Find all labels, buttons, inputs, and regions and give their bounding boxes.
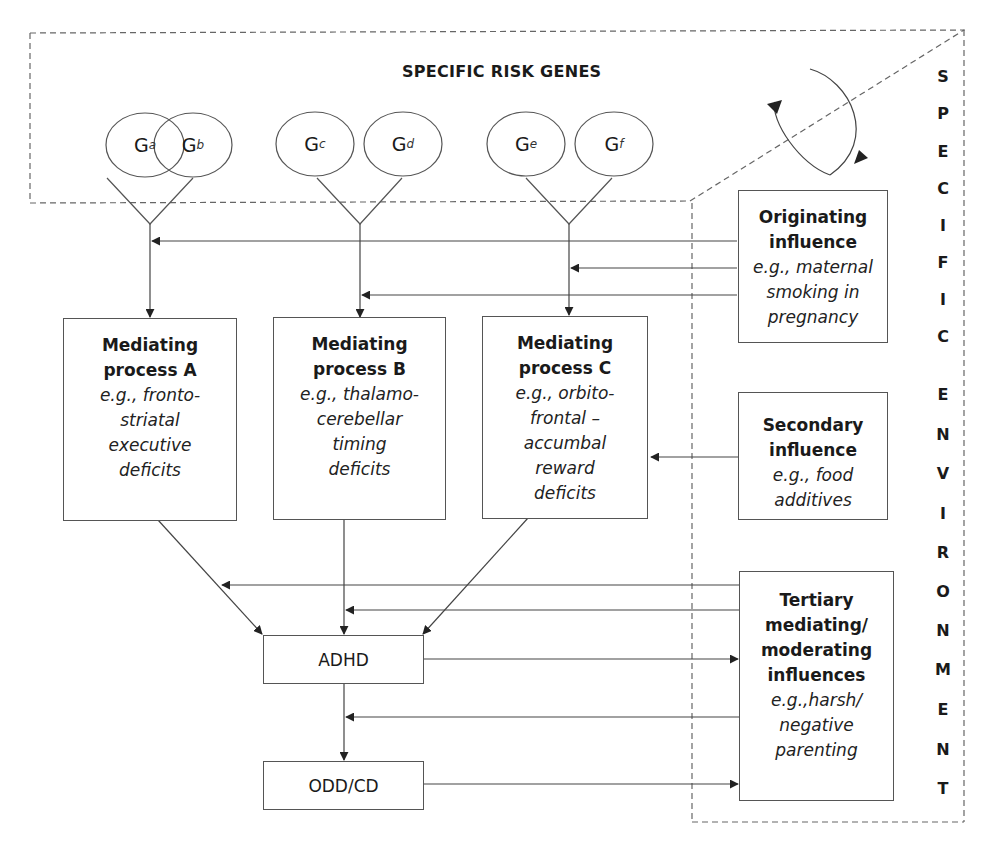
env-letter: T (933, 779, 953, 798)
env-letter: I (933, 290, 953, 309)
secondary-example: e.g., food (773, 463, 853, 488)
env-letter: E (933, 700, 953, 719)
tertiary-example: parenting (775, 738, 857, 763)
env-letter: I (933, 216, 953, 235)
adhd-box: ADHD (263, 635, 424, 684)
secondary-influence: Secondary influence e.g., food additives (738, 392, 888, 520)
originating-title: Originating (759, 205, 867, 230)
env-letter: S (933, 67, 953, 86)
mediating-process-c: Mediating process C e.g., orbito- fronta… (482, 316, 648, 519)
odd-cd-label: ODD/CD (308, 776, 378, 796)
mediating-c-title2: process C (519, 356, 611, 381)
secondary-example: additives (774, 488, 852, 513)
env-letter: N (933, 425, 953, 444)
env-letter: M (933, 660, 953, 679)
tertiary-title: Tertiary (779, 588, 853, 613)
odd-cd-box: ODD/CD (263, 761, 424, 810)
adhd-label: ADHD (318, 650, 369, 670)
tertiary-title: moderating (761, 638, 872, 663)
mediating-a-example: e.g., fronto- (100, 383, 200, 408)
tertiary-title: influences (768, 663, 866, 688)
env-letter: E (933, 385, 953, 404)
gene-d: Gd (364, 112, 442, 176)
tertiary-example: negative (779, 713, 853, 738)
env-letter: F (933, 253, 953, 272)
originating-example: smoking in (767, 280, 860, 305)
mediating-c-title: Mediating (517, 331, 613, 356)
mediating-process-a: Mediating process A e.g., fronto- striat… (63, 318, 237, 521)
mediating-b-title2: process B (313, 357, 406, 382)
tertiary-example: e.g.,harsh/ (771, 688, 862, 713)
mediating-c-example: e.g., orbito- (516, 381, 615, 406)
env-letter: N (933, 621, 953, 640)
env-letter: O (933, 582, 953, 601)
secondary-title: influence (769, 438, 857, 463)
mediating-a-title2: process A (103, 358, 196, 383)
mediating-b-title: Mediating (311, 332, 407, 357)
env-letter: C (933, 327, 953, 346)
mediating-b-example: timing (332, 432, 386, 457)
mediating-b-example: deficits (329, 457, 391, 482)
cycle-arrowhead-down (854, 150, 868, 164)
genes-region-title: SPECIFIC RISK GENES (402, 62, 601, 81)
originating-example: pregnancy (768, 305, 858, 330)
mediating-a-example: striatal (120, 408, 179, 433)
gene-b: Gb (154, 113, 232, 177)
mediating-a-example: executive (108, 433, 191, 458)
mediating-c-example: frontal – (530, 406, 600, 431)
env-letter: R (933, 543, 953, 562)
mediating-a-title: Mediating (102, 333, 198, 358)
mediating-b-example: cerebellar (317, 407, 402, 432)
secondary-title: Secondary (763, 413, 864, 438)
mediating-c-example: accumbal (524, 431, 606, 456)
gene-f: Gf (575, 112, 653, 176)
mediating-b-example: e.g., thalamo- (300, 382, 419, 407)
env-letter: I (933, 504, 953, 523)
originating-title: influence (769, 230, 857, 255)
gene-c: Gc (276, 112, 354, 176)
tertiary-influences: Tertiary mediating/ moderating influence… (739, 571, 894, 801)
tertiary-title: mediating/ (765, 613, 868, 638)
mediating-process-b: Mediating process B e.g., thalamo- cereb… (273, 317, 446, 520)
env-letter: V (933, 464, 953, 483)
mediating-c-example: reward (535, 456, 595, 481)
env-letter: E (933, 142, 953, 161)
env-letter: P (933, 104, 953, 123)
mediating-a-example: deficits (119, 458, 181, 483)
mediating-c-example: deficits (534, 481, 596, 506)
originating-influence: Originating influence e.g., maternal smo… (738, 190, 888, 343)
originating-example: e.g., maternal (753, 255, 873, 280)
env-letter: C (933, 179, 953, 198)
env-letter: N (933, 740, 953, 759)
gene-e: Ge (487, 112, 565, 176)
